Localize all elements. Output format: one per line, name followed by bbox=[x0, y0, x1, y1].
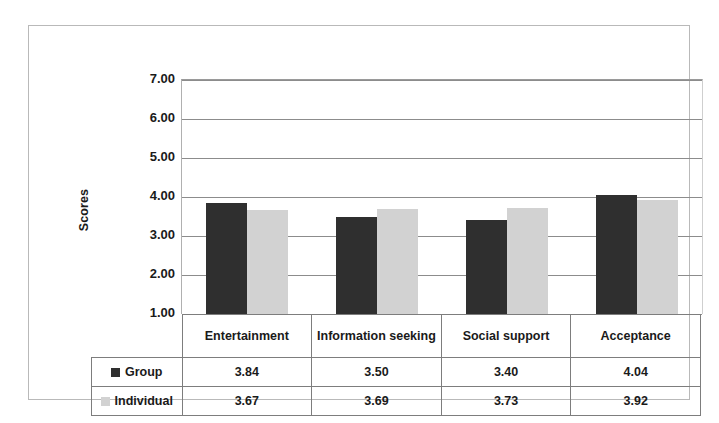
legend-label: Individual bbox=[115, 394, 173, 408]
bar-group-2 bbox=[442, 80, 572, 314]
legend-label: Group bbox=[125, 365, 163, 379]
y-axis-tick-2: 5.00 bbox=[113, 150, 175, 164]
bar-group-1[interactable] bbox=[336, 217, 377, 315]
table-header-row: EntertainmentInformation seekingSocial s… bbox=[92, 315, 701, 358]
table-cell-1-1: 3.69 bbox=[312, 387, 442, 416]
chart-data-table: EntertainmentInformation seekingSocial s… bbox=[91, 314, 701, 416]
table-cell-0-3: 4.04 bbox=[571, 358, 701, 387]
table-cell-0-0: 3.84 bbox=[182, 358, 312, 387]
bar-group-0 bbox=[182, 80, 312, 314]
y-axis-title-label: Scores bbox=[77, 189, 91, 231]
table-cell-0-2: 3.40 bbox=[441, 358, 571, 387]
table-header-2: Social support bbox=[441, 315, 571, 358]
legend-swatch-icon-individual bbox=[101, 397, 110, 406]
y-axis-tick-3: 4.00 bbox=[113, 189, 175, 203]
table-header-3: Acceptance bbox=[571, 315, 701, 358]
table-header-1: Information seeking bbox=[312, 315, 442, 358]
table-header-0: Entertainment bbox=[182, 315, 312, 358]
legend-swatch-icon-group bbox=[111, 368, 120, 377]
legend-item-individual[interactable]: Individual bbox=[92, 387, 183, 416]
bar-group-3 bbox=[572, 80, 702, 314]
chart-figure-frame: Scores 7.006.005.004.003.002.001.00 Ente… bbox=[28, 25, 690, 400]
bar-group-3[interactable] bbox=[596, 195, 637, 314]
bar-individual-0[interactable] bbox=[247, 210, 288, 314]
bar-individual-1[interactable] bbox=[377, 209, 418, 314]
table-corner-cell bbox=[92, 315, 183, 358]
bar-series-container bbox=[182, 80, 702, 314]
bar-group-1 bbox=[312, 80, 442, 314]
table-row: Group3.843.503.404.04 bbox=[92, 358, 701, 387]
y-axis-tick-1: 6.00 bbox=[113, 111, 175, 125]
table-body: Group3.843.503.404.04Individual3.673.693… bbox=[92, 358, 701, 416]
bar-individual-2[interactable] bbox=[507, 208, 548, 314]
y-axis-tick-0: 7.00 bbox=[113, 72, 175, 86]
table-row: Individual3.673.693.733.92 bbox=[92, 387, 701, 416]
y-axis-tick-labels: 7.006.005.004.003.002.001.00 bbox=[113, 72, 175, 320]
y-axis-tick-5: 2.00 bbox=[113, 267, 175, 281]
bar-group-2[interactable] bbox=[466, 220, 507, 314]
table-cell-0-1: 3.50 bbox=[312, 358, 442, 387]
bar-group-0[interactable] bbox=[206, 203, 247, 314]
y-axis-tick-4: 3.00 bbox=[113, 228, 175, 242]
table-cell-1-2: 3.73 bbox=[441, 387, 571, 416]
table-cell-1-3: 3.92 bbox=[571, 387, 701, 416]
plot-area bbox=[181, 79, 703, 314]
bar-individual-3[interactable] bbox=[637, 200, 678, 314]
table-cell-1-0: 3.67 bbox=[182, 387, 312, 416]
y-axis-title: Scores bbox=[73, 165, 95, 255]
legend-item-group[interactable]: Group bbox=[92, 358, 183, 387]
